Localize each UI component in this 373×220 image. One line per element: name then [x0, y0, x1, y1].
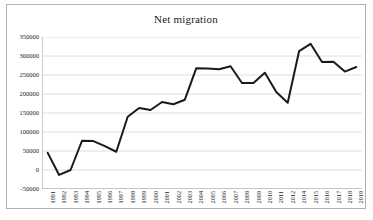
plot-area [42, 37, 362, 189]
x-axis-tick-label: 1991 [50, 191, 56, 203]
y-axis-tick-label: 200000 [20, 91, 40, 98]
x-axis-tick-label: 2001 [164, 191, 170, 203]
x-axis-tick-label: 2015 [313, 191, 319, 203]
y-axis-tick-label: 0 [36, 167, 39, 174]
y-axis-tick-label: 250000 [20, 72, 40, 79]
y-axis-tick-label: 50000 [23, 148, 39, 155]
x-axis-tick-label: 2006 [221, 191, 227, 203]
y-axis-tick-label: 350000 [20, 34, 40, 41]
x-axis-tick-label: 1996 [107, 191, 113, 203]
y-axis-tick-label: 300000 [20, 53, 40, 60]
x-axis-tick-label: 1999 [141, 191, 147, 203]
y-axis-tick-label: 100000 [20, 129, 40, 136]
net-migration-line [48, 44, 357, 175]
x-axis-tick-label: 2016 [324, 191, 330, 203]
y-axis-tick-label: -50000 [21, 186, 39, 193]
x-axis-tick-label: 2014 [301, 191, 307, 203]
x-axis-tick-label: 2004 [198, 191, 204, 203]
x-axis-tick-label: 1994 [84, 191, 90, 203]
line-chart-svg [42, 37, 362, 189]
x-axis-labels: 1991199219931994199519961997199819992000… [42, 191, 362, 220]
x-axis-tick-label: 2007 [233, 191, 239, 203]
x-axis-tick-label: 1995 [96, 191, 102, 203]
gridlines [42, 37, 362, 189]
x-axis-tick-label: 2002 [176, 191, 182, 203]
x-axis-tick-label: 2009 [256, 191, 262, 203]
x-axis-tick-label: 1997 [118, 191, 124, 203]
x-axis-tick-label: 1998 [130, 191, 136, 203]
x-axis-tick-label: 2018 [347, 191, 353, 203]
x-axis-tick-label: 2003 [187, 191, 193, 203]
y-axis-tick-label: 150000 [20, 110, 40, 117]
x-axis-tick-label: 1993 [73, 191, 79, 203]
x-axis-tick-label: 2019 [358, 191, 364, 203]
x-axis-tick-label: 2011 [278, 191, 284, 203]
x-axis-tick-label: 1992 [61, 191, 67, 203]
chart-title: Net migration [7, 13, 365, 25]
x-axis-tick-label: 2008 [244, 191, 250, 203]
x-axis-tick-label: 2010 [267, 191, 273, 203]
x-axis-tick-label: 2005 [210, 191, 216, 203]
x-axis-tick-label: 2017 [336, 191, 342, 203]
x-axis-tick-label: 2000 [153, 191, 159, 203]
x-axis-tick-label: 2012 [290, 191, 296, 203]
chart-container: Net migration 35000030000025000020000015… [6, 4, 366, 209]
